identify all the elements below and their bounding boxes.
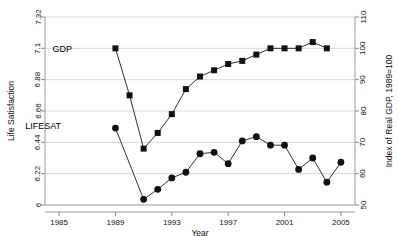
data-point-lifesat (239, 138, 246, 145)
data-point-lifesat (338, 159, 345, 166)
data-point-lifesat (197, 150, 204, 157)
right-axis-tick-label: 60 (359, 169, 368, 178)
right-axis-tick-label: 110 (359, 10, 368, 23)
lifesat-series-label: LIFESAT (25, 121, 61, 131)
gdp-series-label: GDP (52, 44, 72, 54)
series-line-gdp (115, 42, 326, 149)
data-point-gdp (141, 146, 147, 152)
left-axis-tick-label: 7.32 (34, 9, 43, 25)
right-axis-tick-label: 70 (359, 137, 368, 146)
x-axis-tick-label: 2001 (276, 218, 294, 227)
x-axis-title: Year (191, 228, 208, 236)
data-point-gdp (211, 67, 217, 73)
x-axis-tick-label: 1985 (50, 218, 68, 227)
data-point-gdp (324, 45, 330, 51)
x-axis-tick-label: 1997 (219, 218, 237, 227)
data-point-lifesat (253, 133, 260, 140)
data-point-gdp (282, 45, 288, 51)
x-axis-tick-label: 2005 (332, 218, 350, 227)
x-axis-tick-label: 1989 (107, 218, 125, 227)
right-axis-tick-label: 50 (359, 200, 368, 209)
right-axis-title: Index of Real GDP, 1989=100 (384, 54, 394, 167)
data-point-lifesat (295, 166, 302, 173)
data-point-lifesat (112, 125, 119, 132)
data-point-gdp (253, 52, 259, 58)
left-axis-tick-label: 6.22 (34, 165, 43, 181)
data-point-gdp (310, 39, 316, 45)
data-point-gdp (112, 45, 118, 51)
left-axis-tick-label: 6.66 (34, 103, 43, 119)
right-axis-tick-label: 90 (359, 75, 368, 84)
data-point-gdp (296, 45, 302, 51)
data-point-lifesat (281, 142, 288, 149)
right-axis-tick-label: 100 (359, 41, 368, 55)
data-point-lifesat (211, 149, 218, 156)
x-axis-tick-label: 1993 (163, 218, 181, 227)
data-point-gdp (225, 61, 231, 67)
chart-container: 66.226.446.666.887.17.325060708090100110… (0, 0, 398, 236)
data-point-lifesat (140, 196, 147, 203)
left-axis-title: Life Satisfaction (6, 81, 16, 141)
data-point-lifesat (183, 169, 190, 176)
data-point-gdp (183, 86, 189, 92)
data-point-lifesat (267, 142, 274, 149)
right-axis-tick-label: 80 (359, 106, 368, 115)
data-point-gdp (127, 92, 133, 98)
data-point-gdp (267, 45, 273, 51)
data-point-gdp (239, 58, 245, 64)
data-point-gdp (197, 74, 203, 80)
data-point-lifesat (309, 155, 316, 162)
life-satisfaction-gdp-line-chart: 66.226.446.666.887.17.325060708090100110… (0, 0, 398, 236)
left-axis-tick-label: 7.1 (34, 42, 43, 54)
data-point-gdp (169, 111, 175, 117)
left-axis-tick-label: 6 (34, 202, 43, 207)
left-axis-tick-label: 6.88 (34, 71, 43, 87)
data-point-lifesat (323, 179, 330, 186)
data-point-lifesat (168, 175, 175, 182)
data-point-gdp (155, 130, 161, 136)
left-axis-tick-label: 6.44 (34, 134, 43, 150)
data-point-lifesat (154, 186, 161, 193)
data-point-lifesat (225, 160, 232, 167)
